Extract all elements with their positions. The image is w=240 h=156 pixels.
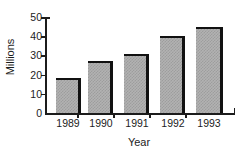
x-tick-mark xyxy=(113,113,115,118)
x-tick-mark xyxy=(149,113,151,118)
x-axis-line xyxy=(45,113,235,115)
y-axis-line xyxy=(45,17,47,113)
y-tick-mark xyxy=(41,75,46,77)
y-tick-label: 40 xyxy=(20,31,42,42)
bar-1991 xyxy=(124,54,149,114)
plot-area xyxy=(45,17,233,113)
bar-1989 xyxy=(56,78,81,114)
y-tick-label: 0 xyxy=(20,108,42,119)
y-tick-mark xyxy=(41,17,46,19)
y-tick-label: 30 xyxy=(20,50,42,61)
x-axis-cap-right xyxy=(234,108,236,114)
y-axis-cap-top xyxy=(45,17,50,19)
y-tick-label: 10 xyxy=(20,89,42,100)
bar-1990 xyxy=(88,61,113,113)
y-tick-mark xyxy=(41,94,46,96)
bar-1992 xyxy=(160,36,185,113)
x-tick-label-1989: 1989 xyxy=(56,118,79,129)
x-tick-label-1990: 1990 xyxy=(89,118,112,129)
y-tick-mark xyxy=(41,36,46,38)
bar-1993 xyxy=(196,27,223,113)
x-tick-label-1993: 1993 xyxy=(197,118,220,129)
x-tick-mark xyxy=(185,113,187,118)
bar-chart: Millions 50 40 30 20 10 0 1989 1990 xyxy=(0,0,240,156)
y-axis-tick-labels: 50 40 30 20 10 0 xyxy=(16,0,42,156)
x-axis-title: Year xyxy=(45,136,233,148)
y-tick-label: 20 xyxy=(20,69,42,80)
y-tick-label: 50 xyxy=(20,12,42,23)
y-axis-title-text: Millions xyxy=(4,39,16,76)
x-tick-label-1991: 1991 xyxy=(125,118,148,129)
y-tick-mark xyxy=(41,55,46,57)
x-tick-label-1992: 1992 xyxy=(161,118,184,129)
